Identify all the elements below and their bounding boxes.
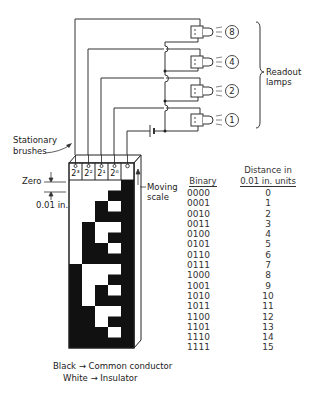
- table-row: 0000: [187, 188, 219, 198]
- zero-label: Zero: [22, 176, 42, 186]
- binary-header-text: Binary: [189, 176, 216, 187]
- table-row: 1111: [187, 342, 219, 352]
- distance-column: 0 1 2 3 4 5 6 7 8 9 10 11 12 13 14 15: [256, 188, 280, 353]
- table-row: 1010: [187, 291, 219, 301]
- distance-header-text: 0.01 in. units: [240, 176, 296, 187]
- lamp-value-2: 2: [228, 86, 236, 96]
- table-cell: 11: [256, 301, 280, 311]
- stationary-label-1: Stationary: [13, 135, 57, 145]
- moving-label-1: Moving: [147, 182, 178, 192]
- lamp-8: [191, 26, 213, 38]
- wire-common: [127, 131, 150, 155]
- table-row: 0111: [187, 260, 219, 270]
- table-row: 1100: [187, 312, 219, 322]
- table-cell: 3: [256, 219, 280, 229]
- brace: [256, 22, 264, 128]
- rays-2: [216, 86, 222, 96]
- table-row: 0011: [187, 219, 219, 229]
- table-row: 0010: [187, 209, 219, 219]
- table-row: 1110: [187, 332, 219, 342]
- table-row: 0101: [187, 239, 219, 249]
- table-row: 1000: [187, 270, 219, 280]
- bit-label-1: 2⁰: [108, 169, 121, 178]
- table-cell: 1: [256, 198, 280, 208]
- lamp-1: [191, 114, 213, 126]
- table-cell: 15: [256, 342, 280, 352]
- table-cell: 13: [256, 322, 280, 332]
- bit-label-8: 2³: [69, 169, 82, 178]
- binary-column: 0000 0001 0010 0011 0100 0101 0110 0111 …: [187, 188, 219, 353]
- table-cell: 10: [256, 291, 280, 301]
- lamp-value-4: 4: [228, 57, 236, 67]
- table-row: 1101: [187, 322, 219, 332]
- rays-1: [216, 115, 222, 125]
- table-cell: 7: [256, 260, 280, 270]
- table-cell: 4: [256, 229, 280, 239]
- table-header-distance-1: Distance in: [236, 165, 300, 175]
- table-row: 0110: [187, 250, 219, 260]
- table-header-binary: Binary: [184, 176, 222, 186]
- wire-2-2: [88, 49, 164, 155]
- table-cell: 6: [256, 250, 280, 260]
- legend-white: White → Insulator: [63, 373, 138, 383]
- stationary-label-2: brushes: [13, 146, 47, 156]
- bit-label-2: 2¹: [95, 169, 108, 178]
- bit-label-4: 2²: [82, 169, 95, 178]
- increment-label: 0.01 in.: [36, 200, 68, 210]
- rays-8: [216, 27, 222, 37]
- lamp-value-1: 1: [228, 115, 236, 125]
- table-row: 1001: [187, 281, 219, 291]
- lamp-2: [191, 85, 213, 97]
- lamp-value-8: 8: [228, 27, 236, 37]
- table-cell: 5: [256, 239, 280, 249]
- rays-4: [216, 57, 222, 67]
- table-header-distance-2: 0.01 in. units: [236, 176, 300, 186]
- readout-label-2: lamps: [266, 77, 292, 87]
- wire-2-1: [101, 78, 164, 155]
- table-cell: 0: [256, 188, 280, 198]
- table-row: 1011: [187, 301, 219, 311]
- readout-label-1: Readout: [266, 67, 301, 77]
- table-cell: 9: [256, 281, 280, 291]
- moving-label-2: scale: [147, 192, 169, 202]
- legend-black: Black → Common conductor: [53, 361, 172, 371]
- table-cell: 12: [256, 312, 280, 322]
- wire-2-3: [75, 19, 200, 155]
- table-cell: 2: [256, 209, 280, 219]
- table-cell: 14: [256, 332, 280, 342]
- table-row: 0100: [187, 229, 219, 239]
- table-row: 0001: [187, 198, 219, 208]
- lamp-4: [191, 56, 213, 68]
- table-cell: 8: [256, 270, 280, 280]
